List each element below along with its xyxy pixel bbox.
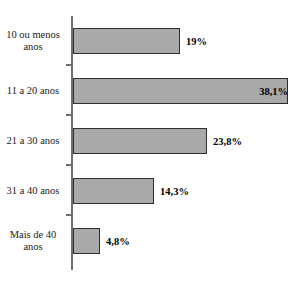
bar-row: Mais de 40 anos4,8% (0, 216, 291, 266)
category-label: Mais de 40 anos (0, 216, 66, 266)
bar-row: 31 a 40 anos14,3% (0, 166, 291, 216)
bar-value-label: 38,1% (73, 78, 291, 104)
axis-tick (66, 164, 71, 166)
bar-row: 10 ou menos anos19% (0, 16, 291, 66)
bar (73, 128, 207, 154)
bar-value-label: 23,8% (207, 128, 242, 154)
category-label: 21 a 30 anos (0, 116, 66, 166)
bar (73, 28, 180, 54)
bar-value-label: 14,3% (154, 178, 189, 204)
bar-row: 21 a 30 anos23,8% (0, 116, 291, 166)
axis-tick (66, 114, 71, 116)
bar-chart-figure: 10 ou menos anos19%11 a 20 anos38,1%21 a… (0, 0, 291, 287)
axis-tick (66, 64, 71, 66)
clipped-header-text (0, 0, 291, 9)
bar-value-label: 19% (180, 28, 207, 54)
bar (73, 228, 100, 254)
bar-value-label: 4,8% (100, 228, 130, 254)
category-label: 10 ou menos anos (0, 16, 66, 66)
category-label: 11 a 20 anos (0, 66, 66, 116)
bar-row: 11 a 20 anos38,1% (0, 66, 291, 116)
axis-tick (66, 214, 71, 216)
plot-area: 10 ou menos anos19%11 a 20 anos38,1%21 a… (0, 12, 291, 274)
bar (73, 178, 154, 204)
category-label: 31 a 40 anos (0, 166, 66, 216)
